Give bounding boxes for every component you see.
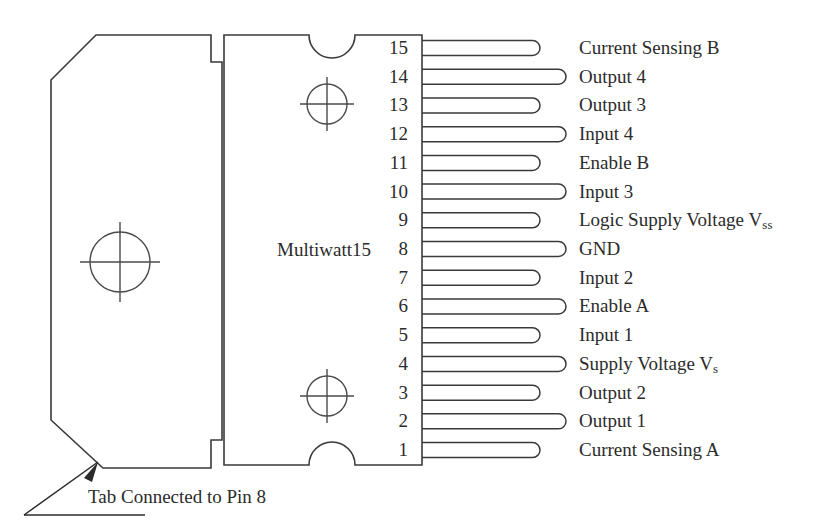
pin-number: 12 [368,124,408,143]
multiwatt15-pinout-diagram: 15Current Sensing B14Output 413Output 31… [0,0,829,528]
pin-label: Current Sensing A [579,440,719,459]
pin-number: 2 [368,411,408,430]
package-name-label: Multiwatt15 [277,240,371,259]
pin-lead [422,213,540,228]
pin-label: Output 1 [579,411,646,430]
pin-label: Enable B [579,153,649,172]
pin-lead [422,242,566,257]
pin-label: Enable A [579,296,649,315]
pin-lead [422,127,566,142]
pin-number: 7 [368,268,408,287]
pin-number: 14 [368,67,408,86]
pin-number: 4 [368,354,408,373]
body-hole-bottom-crosshair [300,369,354,423]
pin-lead [422,270,540,285]
pin-lead [422,41,540,56]
pin-lead [422,299,566,314]
pin-number: 10 [368,182,408,201]
pin-label: GND [579,239,620,258]
pin-lead [422,328,540,343]
pin-number: 9 [368,210,408,229]
pin-lead [422,414,566,429]
pin-label: Input 2 [579,268,633,287]
pin-number: 5 [368,325,408,344]
pin-lead [422,184,566,199]
pin-lead [422,356,566,371]
pin-number: 6 [368,296,408,315]
pin-leads-group [422,41,566,458]
pin-label: Supply Voltage Vs [579,354,718,376]
heatsink-tab-outline [51,35,222,468]
pin-label: Output 3 [579,95,646,114]
pin-lead [422,69,566,84]
pin-lead [422,98,540,113]
pin-number: 11 [368,153,408,172]
pin-lead [422,385,540,400]
tab-connection-note: Tab Connected to Pin 8 [88,487,266,506]
pin-label: Output 2 [579,383,646,402]
tab-hole-crosshair [80,222,160,302]
pin-lead [422,443,540,458]
pin-label: Logic Supply Voltage Vss [579,210,773,232]
pin-label: Input 4 [579,124,633,143]
body-hole-top-crosshair [300,77,354,131]
pin-number: 13 [368,95,408,114]
pin-label: Input 1 [579,325,633,344]
pin-number: 3 [368,383,408,402]
pin-label: Input 3 [579,182,633,201]
pin-label: Output 4 [579,67,646,86]
pin-number: 1 [368,440,408,459]
pin-lead [422,155,540,170]
pin-number: 8 [368,239,408,258]
pin-number: 15 [368,38,408,57]
pin-label: Current Sensing B [579,38,719,57]
